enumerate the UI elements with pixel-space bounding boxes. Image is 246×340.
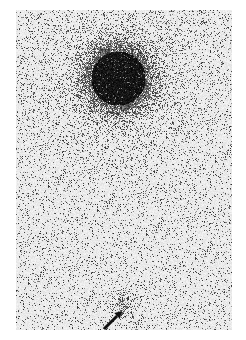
arrow-indicator-icon: [0, 0, 246, 340]
